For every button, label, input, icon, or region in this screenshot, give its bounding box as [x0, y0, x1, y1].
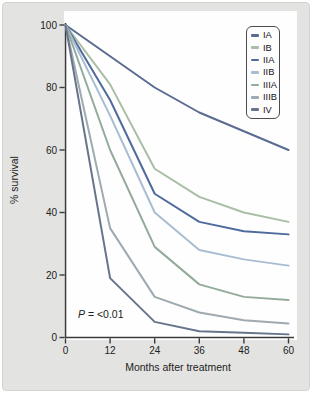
legend-label: IV	[263, 105, 272, 115]
legend-label: IA	[263, 30, 272, 40]
survival-figure: % survival Months after treatment P = <0…	[0, 0, 312, 396]
legend-item: IIA	[251, 55, 279, 65]
legend-box: IAIBIIAIIBIIIAIIIBIV	[246, 26, 280, 119]
legend-label: IIA	[263, 55, 274, 65]
legend-swatch-IIIA	[251, 84, 259, 87]
legend-label: IIB	[263, 67, 274, 77]
legend-swatch-IIA	[251, 59, 259, 62]
legend-label: IIIB	[263, 92, 277, 102]
legend-swatch-IA	[251, 34, 259, 37]
legend-swatch-IIB	[251, 71, 259, 74]
legend-swatch-IB	[251, 46, 259, 49]
legend-item: IIB	[251, 67, 279, 77]
legend-item: IA	[251, 30, 279, 40]
legend-label: IB	[263, 43, 272, 53]
legend-item: IB	[251, 43, 279, 53]
legend-item: IIIB	[251, 92, 279, 102]
legend-item: IIIA	[251, 80, 279, 90]
legend-swatch-IV	[251, 108, 259, 111]
legend-label: IIIA	[263, 80, 277, 90]
legend-item: IV	[251, 105, 279, 115]
legend-swatch-IIIB	[251, 96, 259, 99]
